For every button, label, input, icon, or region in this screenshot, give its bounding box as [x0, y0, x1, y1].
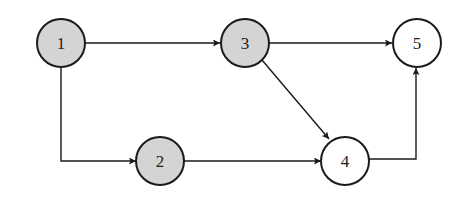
- edge-3-to-4: [262, 60, 329, 139]
- graph-diagram: 1 2 3 4 5: [0, 0, 470, 202]
- node-1-label: 1: [57, 34, 66, 53]
- node-4: 4: [321, 137, 369, 185]
- node-1: 1: [37, 19, 85, 67]
- edge-1-to-2: [61, 67, 136, 161]
- node-3: 3: [221, 19, 269, 67]
- node-2-label: 2: [156, 152, 165, 171]
- node-2: 2: [136, 137, 184, 185]
- node-3-label: 3: [241, 34, 250, 53]
- node-4-label: 4: [341, 152, 350, 171]
- node-5-label: 5: [413, 34, 422, 53]
- edge-4-to-5: [369, 68, 416, 159]
- node-5: 5: [393, 19, 441, 67]
